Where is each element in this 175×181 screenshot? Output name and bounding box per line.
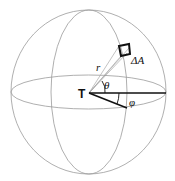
- area-element-square: [119, 44, 130, 56]
- radius-label: r: [96, 61, 101, 73]
- sphere-outline: [11, 10, 166, 174]
- spherical-coordinates-diagram: T r ΔA θ φ: [0, 0, 175, 181]
- origin-label: T: [78, 87, 86, 101]
- equator-ellipse: [11, 75, 166, 109]
- phi-label: φ: [129, 96, 135, 108]
- projection-line: [89, 93, 127, 108]
- area-element-label: ΔA: [130, 54, 144, 66]
- phi-arc: [117, 93, 119, 104]
- meridian-ellipse: [51, 10, 127, 174]
- theta-label: θ: [104, 79, 110, 91]
